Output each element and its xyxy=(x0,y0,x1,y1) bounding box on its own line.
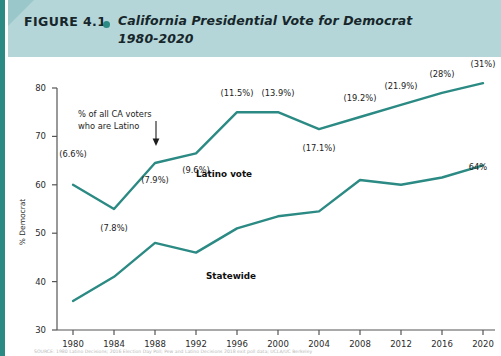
x-tick-label-2016: 2016 xyxy=(431,339,453,349)
chart-plot-area: 80 70 60 50 40 30 % Democrat 1980 xyxy=(8,57,501,356)
figure-title-line1: California Presidential Vote for Democra… xyxy=(118,13,412,28)
x-tick-label-1988: 1988 xyxy=(144,339,166,349)
x-tick-label-2012: 2012 xyxy=(390,339,412,349)
series-label-latino-vote: Latino vote xyxy=(196,169,252,179)
latino-point-label-1980: (6.6%) xyxy=(59,149,87,159)
y-tick-label-80: 80 xyxy=(35,83,46,93)
annotation-line2: who are Latino xyxy=(78,121,139,131)
latino-point-label-2004: (17.1%) xyxy=(303,143,336,153)
x-tick-label-2008: 2008 xyxy=(349,339,371,349)
latino-point-label-2016: (28%) xyxy=(430,69,455,79)
down-arrow-icon xyxy=(153,121,160,146)
x-tick-label-2004: 2004 xyxy=(308,339,330,349)
x-tick-label-1996: 1996 xyxy=(226,339,248,349)
y-tick-label-50: 50 xyxy=(35,228,46,238)
y-axis-title: % Democrat xyxy=(18,199,27,246)
figure-title-line2: 1980-2020 xyxy=(118,31,194,46)
y-tick-label-30: 30 xyxy=(35,325,46,335)
x-tick-label-2020: 2020 xyxy=(472,339,494,349)
y-tick-label-70: 70 xyxy=(35,131,46,141)
x-tick-label-1984: 1984 xyxy=(103,339,125,349)
latino-point-label-1988: (7.9%) xyxy=(141,175,169,185)
figure-page: FIGURE 4.1 California Presidential Vote … xyxy=(0,0,501,356)
figure-number: FIGURE 4.1 xyxy=(24,14,106,29)
line-chart-svg: 80 70 60 50 40 30 % Democrat 1980 xyxy=(8,57,501,356)
x-tick-label-1980: 1980 xyxy=(62,339,84,349)
series-line-latino-vote xyxy=(73,83,483,209)
latino-point-label-2000: (13.9%) xyxy=(262,88,295,98)
latino-point-label-2012: (21.9%) xyxy=(385,81,418,91)
latino-point-label-1996: (11.5%) xyxy=(221,88,254,98)
x-tick-label-2000: 2000 xyxy=(267,339,289,349)
source-note: SOURCE: 1980 Latino Decisions; 2016 Elec… xyxy=(34,349,494,354)
series-label-statewide: Statewide xyxy=(206,271,256,281)
latino-point-label-2020: (31%) xyxy=(471,59,496,69)
x-tick-label-1992: 1992 xyxy=(185,339,207,349)
latino-point-label-group: (6.6%)(7.8%)(7.9%)(9.6%)(11.5%)(13.9%)(1… xyxy=(59,59,495,233)
y-tick-label-60: 60 xyxy=(35,180,46,190)
latino-point-label-1984: (7.8%) xyxy=(100,223,128,233)
latino-point-label-2008: (19.2%) xyxy=(344,93,377,103)
annotation-line1: % of all CA voters xyxy=(78,109,152,119)
y-tick-label-40: 40 xyxy=(35,277,46,287)
statewide-end-value-label: 64% xyxy=(469,162,488,172)
latino-share-annotation: % of all CA voters who are Latino xyxy=(78,109,159,146)
teal-dot-icon xyxy=(103,21,110,28)
